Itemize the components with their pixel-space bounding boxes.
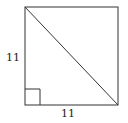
left-side-label: 11 [6,51,20,64]
square-diagram: 11 11 [0,0,128,123]
diagonal-line [25,7,118,105]
right-angle-marker [25,89,40,105]
bottom-side-label: 11 [61,107,75,120]
